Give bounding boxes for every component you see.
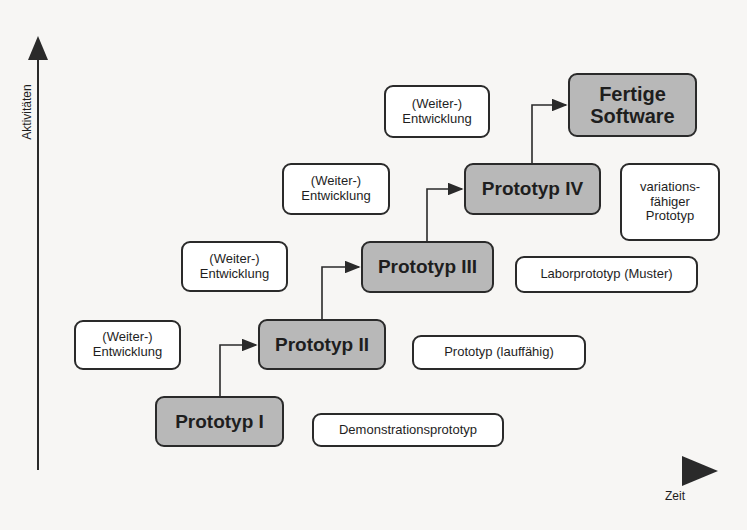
development-line2: Entwicklung [301,189,370,204]
variable-prototype-label: variations-fähigerPrototyp [620,163,720,241]
development-line2: Entwicklung [402,112,471,127]
development-line1: (Weiter-) [301,174,370,189]
prototype-2-label: Prototyp II [275,334,369,356]
type-label-text: Demonstrationsprototyp [339,423,477,438]
prototype-2-box: Prototyp II [258,319,386,370]
development-box-3: (Weiter-)Entwicklung [282,163,390,215]
final-software-box: FertigeSoftware [568,73,697,137]
type-label-line1: variations- [640,180,700,195]
development-box-4: (Weiter-)Entwicklung [384,85,490,138]
type-label-text: Prototyp (lauffähig) [444,345,554,360]
development-box-1: (Weiter-)Entwicklung [74,320,181,370]
final-software-line2: Software [590,105,674,127]
development-line1: (Weiter-) [402,97,471,112]
prototype-3-box: Prototyp III [361,241,494,293]
development-box-2: (Weiter-)Entwicklung [181,241,288,292]
runnable-prototype-label: Prototyp (lauffähig) [412,335,586,370]
final-software-line1: Fertige [590,83,674,105]
development-line2: Entwicklung [93,345,162,360]
lab-prototype-label: Laborprototyp (Muster) [515,256,698,293]
development-line1: (Weiter-) [200,252,269,267]
demonstration-prototype-label: Demonstrationsprototyp [312,413,504,447]
prototype-1-label: Prototyp I [175,411,264,433]
type-label-line3: Prototyp [640,209,700,224]
y-axis-label: Aktivitäten [20,77,34,147]
development-line2: Entwicklung [200,267,269,282]
prototype-1-box: Prototyp I [155,396,284,447]
prototype-3-label: Prototyp III [378,256,477,278]
development-line1: (Weiter-) [93,330,162,345]
prototype-4-box: Prototyp IV [464,163,601,215]
x-axis-label: Zeit [665,489,685,503]
type-label-text: Laborprototyp (Muster) [540,267,672,282]
prototype-4-label: Prototyp IV [482,178,583,200]
type-label-line2: fähiger [640,195,700,210]
